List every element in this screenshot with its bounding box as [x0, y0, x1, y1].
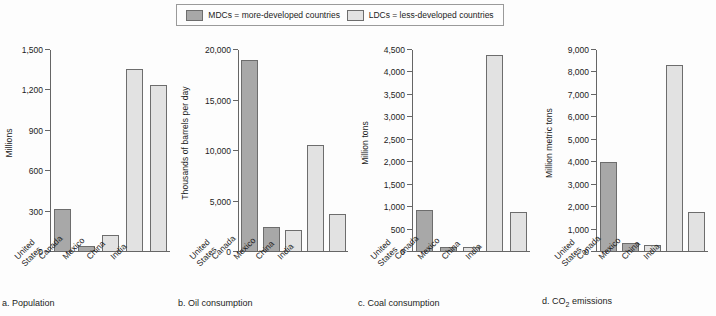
- y-tick-mark: [407, 49, 412, 50]
- y-axis-label: Million metric tons: [542, 34, 556, 252]
- y-tick-label: 600: [29, 166, 43, 176]
- chart-panel-oil-consumption: Thousands of barrels per day 05,00010,00…: [176, 34, 356, 316]
- y-tick-mark: [45, 211, 50, 212]
- bar: [329, 214, 346, 251]
- y-tick-mark: [591, 94, 596, 95]
- y-tick-label: 900: [29, 126, 43, 136]
- y-tick-label: 9,000: [568, 45, 589, 55]
- y-tick-label: 10,000: [205, 146, 231, 156]
- y-tick-mark: [407, 206, 412, 207]
- bar: [510, 212, 527, 251]
- legend-label-mdc: MDCs = more-developed countries: [208, 10, 340, 20]
- bar: [126, 69, 143, 251]
- legend-entry-mdc: MDCs = more-developed countries: [186, 10, 340, 21]
- y-tick-label: 3,500: [384, 90, 405, 100]
- y-tick-label: 1,500: [22, 45, 43, 55]
- y-axis-label: Thousands of barrels per day: [178, 34, 192, 252]
- y-tick-label: 6,000: [568, 112, 589, 122]
- x-axis-labels: UnitedStatesCanadaMexicoChinaIndia: [357, 253, 540, 299]
- y-tick-label: 20,000: [205, 45, 231, 55]
- bar: [241, 60, 258, 251]
- y-tick-mark: [233, 201, 238, 202]
- x-axis-labels: UnitedStatesCanadaMexicoChinaIndia: [177, 253, 356, 299]
- y-tick-mark: [45, 49, 50, 50]
- y-tick-mark: [591, 71, 596, 72]
- y-tick-mark: [45, 89, 50, 90]
- chart-legend: MDCs = more-developed countries LDCs = l…: [176, 4, 504, 26]
- y-tick-label: 8,000: [568, 67, 589, 77]
- y-tick-mark: [591, 116, 596, 117]
- y-tick-label: 4,000: [568, 157, 589, 167]
- y-tick-mark: [407, 161, 412, 162]
- y-tick-label: 2,500: [384, 135, 405, 145]
- bar-series: [413, 50, 530, 251]
- y-tick-label: 4,000: [384, 67, 405, 77]
- legend-label-ldc: LDCs = less-developed countries: [369, 10, 494, 20]
- chart-panel-population: Millions 03006009001,2001,500 UnitedStat…: [0, 34, 176, 316]
- bar: [666, 65, 683, 251]
- y-tick-label: 5,000: [210, 197, 231, 207]
- legend-swatch-mdc: [186, 10, 203, 21]
- y-tick-mark: [407, 94, 412, 95]
- bar: [688, 212, 705, 251]
- plot-area: 01,0002,0003,0004,0005,0006,0007,0008,00…: [596, 50, 708, 252]
- y-tick-label: 7,000: [568, 90, 589, 100]
- chart-panel-co2-emissions: Million metric tons 01,0002,0003,0004,00…: [540, 34, 716, 316]
- y-tick-mark: [45, 170, 50, 171]
- x-axis-labels: UnitedStatesCanadaMexicoChinaIndia: [541, 253, 716, 299]
- bar: [307, 145, 324, 251]
- y-tick-mark: [407, 229, 412, 230]
- y-tick-mark: [407, 139, 412, 140]
- y-tick-mark: [407, 184, 412, 185]
- bar: [150, 85, 167, 251]
- bar: [486, 55, 503, 251]
- panel-caption: b. Oil consumption: [178, 298, 253, 308]
- bar-series: [239, 50, 348, 251]
- y-tick-label: 4,500: [384, 45, 405, 55]
- y-tick-label: 3,000: [384, 112, 405, 122]
- y-tick-label: 300: [29, 207, 43, 217]
- y-tick-label: 15,000: [205, 96, 231, 106]
- x-axis-labels: UnitedStatesCanadaMexicoChinaIndia: [1, 253, 176, 299]
- bar-series: [597, 50, 708, 251]
- y-tick-mark: [591, 206, 596, 207]
- plot-area: 05001,0001,5002,0002,5003,0003,5004,0004…: [412, 50, 530, 252]
- bar-series: [51, 50, 170, 251]
- y-tick-mark: [407, 116, 412, 117]
- y-tick-label: 500: [391, 225, 405, 235]
- y-tick-mark: [591, 49, 596, 50]
- legend-entry-ldc: LDCs = less-developed countries: [347, 10, 494, 21]
- y-tick-mark: [591, 161, 596, 162]
- y-tick-label: 1,000: [384, 202, 405, 212]
- y-tick-label: 2,000: [384, 157, 405, 167]
- legend-swatch-ldc: [347, 10, 364, 21]
- y-tick-label: 2,000: [568, 202, 589, 212]
- y-tick-mark: [591, 229, 596, 230]
- y-tick-label: 1,500: [384, 180, 405, 190]
- y-tick-mark: [591, 139, 596, 140]
- panel-caption: c. Coal consumption: [358, 298, 440, 308]
- y-axis-label: Million tons: [358, 34, 372, 252]
- y-tick-mark: [45, 130, 50, 131]
- y-tick-mark: [233, 49, 238, 50]
- chart-panel-coal-consumption: Million tons 05001,0001,5002,0002,5003,0…: [356, 34, 540, 316]
- y-tick-mark: [233, 150, 238, 151]
- y-tick-label: 3,000: [568, 180, 589, 190]
- panel-caption: a. Population: [2, 298, 55, 308]
- plot-area: 03006009001,2001,500: [50, 50, 170, 252]
- plot-area: 05,00010,00015,00020,000: [238, 50, 348, 252]
- y-tick-label: 5,000: [568, 135, 589, 145]
- y-tick-mark: [591, 184, 596, 185]
- y-tick-label: 1,000: [568, 225, 589, 235]
- y-axis-label: Millions: [2, 34, 16, 252]
- y-tick-mark: [233, 100, 238, 101]
- panel-caption-co2: d. CO2 emissions: [542, 296, 612, 308]
- y-tick-mark: [407, 71, 412, 72]
- y-tick-label: 1,200: [22, 85, 43, 95]
